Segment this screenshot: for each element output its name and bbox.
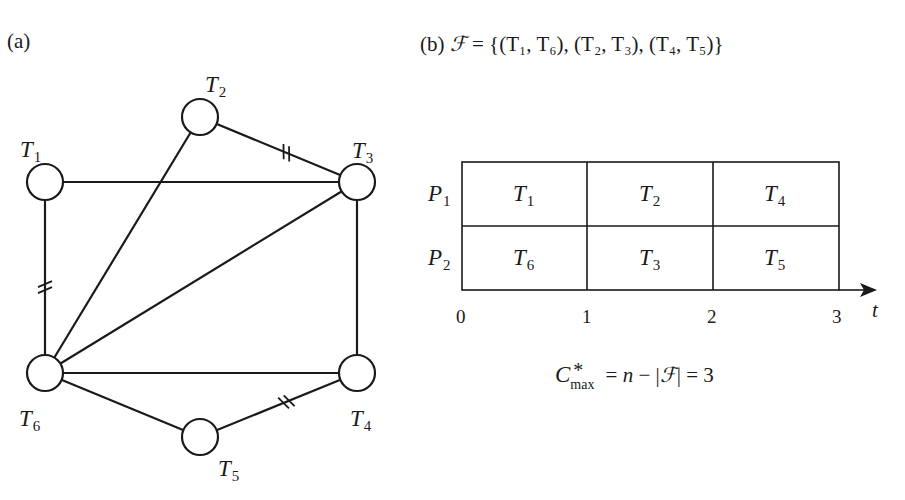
time-tick-3: 3 [832, 307, 842, 326]
panel-b-label: (b) [420, 32, 445, 56]
set-symbol: ℱ [450, 32, 467, 56]
matching-set: = {(T₁, T₆), (T₂, T₃), (T₄, T₅)} [467, 32, 724, 56]
time-tick-0: 0 [456, 307, 466, 326]
gantt-cell-p2-slot1: T6 [513, 246, 534, 273]
edge-t5-t4 [200, 373, 357, 437]
node-label-t6: T6 [19, 407, 40, 434]
node-t4 [339, 355, 375, 391]
node-label-t4: T4 [350, 407, 371, 434]
edge-t2-t6 [45, 117, 200, 373]
node-t2 [182, 99, 218, 135]
node-t6 [27, 355, 63, 391]
processor-label-p1: P1 [428, 182, 451, 209]
edge-t2-t3 [200, 117, 357, 182]
node-label-t3: T3 [352, 139, 373, 166]
makespan-formula: C * max = n − |ℱ| = 3 [555, 363, 714, 386]
processor-label-p2: P2 [428, 246, 451, 273]
gantt-cell-p1-slot1: T1 [513, 182, 534, 209]
node-t3 [339, 164, 375, 200]
gantt-cell-p1-slot2: T2 [639, 182, 660, 209]
edge-t6-t5 [45, 373, 200, 437]
edge-t3-t6 [45, 182, 357, 373]
time-tick-1: 1 [582, 307, 592, 326]
edge-marks [38, 144, 295, 408]
gantt-cell-p2-slot3: T5 [764, 246, 785, 273]
panel-b-heading: (b) ℱ = {(T₁, T₆), (T₂, T₃), (T₄, T₅)} [420, 34, 723, 55]
node-t5 [182, 419, 218, 455]
node-label-t2: T2 [205, 73, 226, 100]
time-tick-2: 2 [707, 307, 717, 326]
time-axis-label: t [872, 300, 878, 321]
node-label-t5: T5 [218, 457, 239, 484]
gantt-cell-p2-slot2: T3 [639, 246, 660, 273]
node-t1 [27, 164, 63, 200]
graph-edges [45, 117, 357, 437]
gantt-cell-p1-slot3: T4 [764, 182, 785, 209]
node-label-t1: T1 [20, 138, 41, 165]
